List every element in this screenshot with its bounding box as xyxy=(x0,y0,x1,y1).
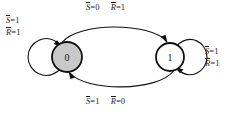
state-transition-diagram: 0 1 S=0R=1 S=1R=0 S=1 R=1 S=1 R=1 xyxy=(0,0,236,114)
transition-arc-0-to-1-arrowhead xyxy=(161,35,168,44)
self-loop-label-state-0-value-2: 1 xyxy=(16,27,20,37)
transition-label-1-to-0-value-2: 0 xyxy=(121,96,125,106)
transition-label-1-to-0: S=1R=0 xyxy=(86,96,125,107)
transition-label-1-to-0-term-1: S=1 xyxy=(86,96,100,107)
self-loop-label-state-1: S=1 R=1 xyxy=(205,46,220,70)
self-loop-label-state-1-line-1: S=1 xyxy=(205,46,220,58)
self-loop-label-state-0-line-1: S=1 xyxy=(6,15,21,27)
state-node-0[interactable]: 0 xyxy=(52,42,82,72)
transition-label-0-to-1-term-1: S=0 xyxy=(86,2,100,13)
self-loop-label-state-0: S=1 R=1 xyxy=(6,15,21,39)
self-loop-label-state-1-value-1: 1 xyxy=(214,46,218,56)
self-loop-label-state-0-value-1: 1 xyxy=(15,15,19,25)
transition-label-0-to-1: S=0R=1 xyxy=(86,2,125,13)
transition-label-0-to-1-value-2: 1 xyxy=(121,2,125,12)
transition-arc-1-to-0 xyxy=(68,70,174,86)
state-node-1-label: 1 xyxy=(168,52,173,63)
transition-arc-1-to-0-path xyxy=(69,71,174,87)
state-node-1[interactable]: 1 xyxy=(156,43,184,71)
transition-label-0-to-1-value-1: 0 xyxy=(95,2,99,12)
transition-label-1-to-0-term-2: R=0 xyxy=(111,96,126,107)
state-node-0-label: 0 xyxy=(65,52,70,63)
transition-label-1-to-0-value-1: 1 xyxy=(95,96,99,106)
self-loop-label-state-1-line-2: R=1 xyxy=(205,58,220,70)
transition-arc-0-to-1 xyxy=(62,27,168,44)
self-loop-label-state-1-value-2: 1 xyxy=(215,58,219,68)
transition-arc-0-to-1-path xyxy=(62,27,167,43)
self-loop-label-state-0-line-2: R=1 xyxy=(6,27,21,39)
transition-label-0-to-1-term-2: R=1 xyxy=(111,2,126,13)
